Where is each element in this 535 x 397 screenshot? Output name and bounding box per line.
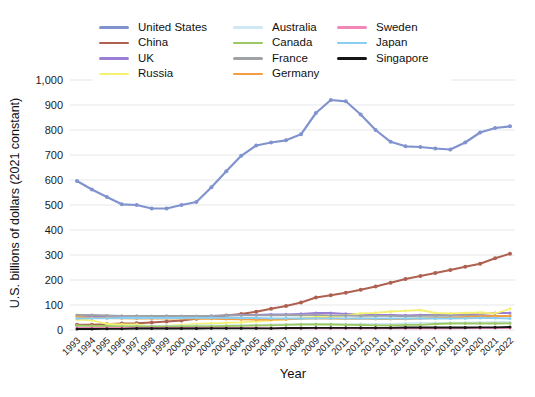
series-marker-china xyxy=(508,252,512,256)
series-marker-china xyxy=(478,262,482,266)
series-marker-japan xyxy=(419,317,422,320)
legend-label: Singapore xyxy=(376,53,428,65)
series-marker-china xyxy=(448,268,452,272)
series-marker-united-states xyxy=(180,203,184,207)
series-marker-canada xyxy=(300,323,303,326)
series-marker-united-states xyxy=(239,154,243,158)
legend-label: Russia xyxy=(138,68,173,80)
series-marker-united-states xyxy=(165,207,169,211)
y-tick-label: 1,000 xyxy=(35,74,63,86)
y-tick-label: 700 xyxy=(45,149,63,161)
series-marker-japan xyxy=(240,317,243,320)
series-marker-china xyxy=(374,285,378,289)
series-marker-france xyxy=(270,314,273,317)
series-marker-canada xyxy=(344,323,347,326)
series-marker-russia xyxy=(389,310,392,313)
x-axis-title: Year xyxy=(280,366,306,381)
series-marker-united-states xyxy=(314,111,318,115)
series-marker-singapore xyxy=(389,326,392,329)
series-marker-canada xyxy=(509,322,512,325)
series-marker-singapore xyxy=(105,327,108,330)
series-marker-china xyxy=(254,310,258,314)
legend-swatch-canada xyxy=(233,42,263,45)
y-tick-label: 300 xyxy=(45,249,63,261)
series-marker-canada xyxy=(419,323,422,326)
series-marker-china xyxy=(165,320,169,324)
series-marker-china xyxy=(150,321,154,325)
series-marker-united-states xyxy=(269,141,273,145)
series-marker-china xyxy=(389,281,393,285)
series-marker-singapore xyxy=(479,326,482,329)
legend-item-canada: Canada xyxy=(233,35,337,50)
series-marker-united-states xyxy=(150,207,154,211)
series-marker-japan xyxy=(90,317,93,320)
chart-figure: 01002003004005006007008009001,0001993199… xyxy=(0,0,535,397)
series-line-japan xyxy=(77,318,510,319)
series-marker-united-states xyxy=(478,131,482,135)
series-marker-japan xyxy=(464,317,467,320)
y-tick-label: 200 xyxy=(45,274,63,286)
series-marker-japan xyxy=(479,317,482,320)
series-marker-singapore xyxy=(210,327,213,330)
y-axis-title: U.S. billions of dollars (2021 constant) xyxy=(8,98,22,309)
series-marker-uk xyxy=(509,312,512,315)
series-marker-singapore xyxy=(90,328,93,331)
series-marker-singapore xyxy=(180,327,183,330)
series-marker-united-states xyxy=(135,203,139,207)
series-marker-united-states xyxy=(508,124,512,128)
series-marker-france xyxy=(240,314,243,317)
series-marker-japan xyxy=(105,317,108,320)
series-marker-singapore xyxy=(255,327,258,330)
series-marker-france xyxy=(90,314,93,317)
series-marker-japan xyxy=(509,317,512,320)
series-marker-canada xyxy=(329,323,332,326)
series-marker-singapore xyxy=(359,326,362,329)
legend-item-australia: Australia xyxy=(233,20,337,35)
legend-item-germany: Germany xyxy=(233,66,337,81)
series-marker-japan xyxy=(165,317,168,320)
legend-swatch-uk xyxy=(99,57,129,60)
series-marker-canada xyxy=(270,324,273,327)
legend-swatch-singapore xyxy=(337,57,367,60)
series-marker-japan xyxy=(210,316,213,319)
series-marker-japan xyxy=(135,317,138,320)
legend-item-singapore: Singapore xyxy=(337,51,445,66)
series-marker-japan xyxy=(389,317,392,320)
legend-swatch-japan xyxy=(337,42,367,45)
legend: United StatesChinaUKRussiaAustraliaCanad… xyxy=(93,17,451,84)
series-marker-france xyxy=(329,314,332,317)
series-marker-japan xyxy=(270,317,273,320)
series-marker-singapore xyxy=(165,327,168,330)
legend-label: Sweden xyxy=(376,22,418,34)
series-marker-united-states xyxy=(389,140,393,144)
series-marker-united-states xyxy=(448,148,452,152)
series-marker-united-states xyxy=(359,113,363,117)
series-marker-singapore xyxy=(419,326,422,329)
series-marker-singapore xyxy=(314,326,317,329)
series-marker-singapore xyxy=(329,326,332,329)
y-tick-label: 900 xyxy=(45,99,63,111)
legend-item-china: China xyxy=(99,35,233,50)
legend-label: Japan xyxy=(376,37,407,49)
series-marker-japan xyxy=(150,317,153,320)
series-marker-united-states xyxy=(299,132,303,136)
series-marker-china xyxy=(359,288,363,292)
series-marker-singapore xyxy=(270,327,273,330)
series-marker-china xyxy=(344,291,348,295)
series-marker-russia xyxy=(509,307,512,310)
series-marker-united-states xyxy=(209,185,213,189)
series-marker-singapore xyxy=(240,327,243,330)
legend-item-sweden: Sweden xyxy=(337,20,445,35)
series-marker-singapore xyxy=(449,326,452,329)
legend-item-japan: Japan xyxy=(337,35,445,50)
series-marker-singapore xyxy=(494,326,497,329)
series-marker-united-states xyxy=(90,188,94,192)
series-marker-france xyxy=(389,314,392,317)
series-marker-united-states xyxy=(418,145,422,149)
series-marker-japan xyxy=(344,317,347,320)
series-marker-russia xyxy=(419,309,422,312)
series-marker-singapore xyxy=(195,327,198,330)
series-marker-china xyxy=(493,256,497,260)
series-marker-united-states xyxy=(374,128,378,132)
series-marker-canada xyxy=(434,323,437,326)
